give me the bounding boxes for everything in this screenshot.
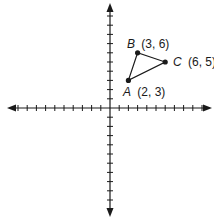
arrow-left-icon xyxy=(7,105,16,112)
point-a xyxy=(126,78,131,83)
label-b-coords: (3, 6) xyxy=(141,37,169,51)
label-c-coords: (6, 5) xyxy=(188,55,214,69)
label-b: B (3, 6) xyxy=(127,37,169,51)
label-b-letter: B xyxy=(127,37,135,51)
coordinate-plane: B (3, 6) C (6, 5) A (2, 3) xyxy=(0,0,214,221)
label-a-letter: A xyxy=(122,85,131,99)
arrow-right-icon xyxy=(203,105,212,112)
label-a-coords: (2, 3) xyxy=(137,85,165,99)
label-a: A (2, 3) xyxy=(122,85,165,99)
point-c xyxy=(163,59,168,64)
triangle-abc xyxy=(128,53,165,81)
arrow-down-icon xyxy=(107,208,114,217)
label-c: C (6, 5) xyxy=(173,55,214,69)
arrow-up-icon xyxy=(107,3,114,12)
label-c-letter: C xyxy=(173,55,182,69)
